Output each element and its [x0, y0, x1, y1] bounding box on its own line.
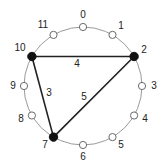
hollow-node-0 [79, 23, 86, 30]
hollow-node-1 [109, 31, 116, 38]
node-label-5: 5 [118, 140, 124, 150]
node-label-2: 2 [141, 45, 147, 55]
node-label-9: 9 [10, 81, 16, 91]
hollow-node-11 [50, 31, 57, 38]
node-label-1: 1 [118, 21, 124, 31]
node-label-0: 0 [80, 10, 86, 20]
edge-label-10-7: 3 [46, 88, 52, 98]
hollow-node-3 [138, 82, 145, 89]
diagram-canvas [0, 0, 166, 168]
filled-node-7 [49, 133, 57, 141]
node-label-4: 4 [142, 114, 148, 124]
hollow-node-4 [131, 112, 138, 119]
hollow-node-8 [28, 112, 35, 119]
node-label-8: 8 [18, 114, 24, 124]
node-label-7: 7 [42, 140, 48, 150]
hollow-node-6 [79, 141, 86, 148]
filled-node-10 [28, 52, 36, 60]
node-label-11: 11 [38, 20, 48, 30]
filled-node-2 [130, 52, 138, 60]
edge-label-10-2: 4 [74, 59, 80, 69]
node-label-6: 6 [80, 152, 86, 162]
pitch-class-ring [24, 27, 142, 145]
hollow-node-5 [109, 134, 116, 141]
node-label-3: 3 [151, 81, 157, 91]
node-label-10: 10 [14, 43, 25, 53]
pitch-class-circle-diagram: 43501234567891011 [0, 0, 166, 168]
hollow-node-9 [20, 82, 27, 89]
edge-label-7-2: 5 [81, 92, 87, 102]
edge-7-2 [54, 57, 135, 138]
